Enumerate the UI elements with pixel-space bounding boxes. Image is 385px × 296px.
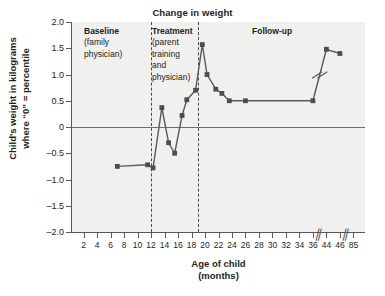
y-axis-title: Child's weight in kilograms where “0” = … [7, 0, 32, 210]
x-tick [165, 233, 166, 238]
series-line [117, 45, 340, 168]
data-point-marker [213, 87, 218, 92]
x-tick [286, 233, 287, 238]
x-tick [111, 233, 112, 238]
x-tick [124, 233, 125, 238]
data-point-marker [159, 105, 164, 110]
x-tick [326, 233, 327, 238]
data-point-marker [324, 47, 329, 52]
data-point-marker [311, 98, 316, 103]
y-axis-title-main: Child's weight in kilograms [7, 37, 18, 160]
data-point-marker [184, 97, 189, 102]
x-tick [232, 233, 233, 238]
x-tick [313, 233, 314, 238]
x-tick [192, 233, 193, 238]
x-tick [353, 233, 354, 238]
x-tick [138, 233, 139, 238]
x-tick [245, 233, 246, 238]
x-axis-title: Age of child (months) [72, 258, 365, 282]
x-tick [97, 233, 98, 238]
x-tick [299, 233, 300, 238]
y-axis-title-wrap: Child's weight in kilograms where “0” = … [0, 40, 36, 240]
y-tick [66, 232, 72, 233]
data-point-marker [338, 51, 343, 56]
data-point-marker [193, 88, 198, 93]
data-series-layer [72, 22, 365, 232]
x-tick [259, 233, 260, 238]
data-point-marker [243, 98, 248, 103]
x-axis-title-sub: (months) [198, 270, 239, 281]
data-point-marker [180, 113, 185, 118]
x-tick [219, 233, 220, 238]
x-tick [340, 233, 341, 238]
data-point-marker [145, 162, 150, 167]
x-tick [84, 233, 85, 238]
data-point-marker [205, 72, 210, 77]
data-point-marker [115, 164, 120, 169]
x-tick [272, 233, 273, 238]
data-point-marker [227, 98, 232, 103]
x-tick [178, 233, 179, 238]
x-tick [151, 233, 152, 238]
x-axis-title-main: Age of child [191, 258, 245, 269]
data-point-marker [172, 151, 177, 156]
x-tick-label: 85 [342, 240, 364, 250]
data-point-marker [166, 140, 171, 145]
y-axis-title-sub: where “0” = percentile [19, 48, 30, 149]
data-point-marker [151, 166, 156, 171]
x-tick [205, 233, 206, 238]
chart-root: Change in weight Baseline (family physic… [0, 0, 385, 296]
data-point-marker [200, 42, 205, 47]
data-point-marker [219, 91, 224, 96]
